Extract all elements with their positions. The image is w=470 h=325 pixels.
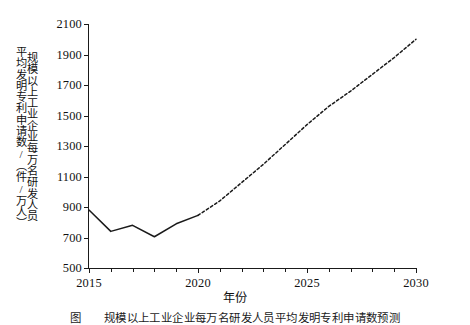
x-axis-tick: [307, 268, 308, 273]
x-axis-minor-tick: [351, 268, 352, 272]
x-axis-tick: [89, 268, 90, 273]
x-axis-minor-tick: [329, 268, 330, 272]
y-axis-tick-label: 2100: [56, 17, 82, 32]
series-line-forecast: [198, 39, 416, 215]
y-axis-title: 规模以上工业企业每万名研发人员 平均发明专利申请数/（件/万人）: [4, 12, 48, 262]
y-axis-tick-label: 900: [63, 200, 82, 215]
plot-area: 5007009001100130015001700190021002015202…: [88, 24, 416, 269]
y-axis-title-line-1: 规模以上工业企业每万名研发人员: [26, 52, 37, 222]
y-axis-tick-label: 1900: [56, 47, 82, 62]
y-axis-tick-label: 1700: [56, 78, 82, 93]
y-axis-tick: [84, 177, 89, 178]
x-axis-title: 年份: [0, 288, 470, 306]
x-axis-tick: [416, 268, 417, 273]
figure-caption: 图 规模以上工业企业每万名研发人员平均发明专利申请数预测: [0, 309, 470, 325]
x-axis-tick: [198, 268, 199, 273]
y-axis-tick: [84, 116, 89, 117]
series-line-historical: [89, 210, 198, 237]
x-axis-minor-tick: [133, 268, 134, 272]
y-axis-tick: [84, 207, 89, 208]
y-axis-tick: [84, 24, 89, 25]
x-axis-minor-tick: [111, 268, 112, 272]
y-axis-tick: [84, 238, 89, 239]
x-axis-minor-tick: [263, 268, 264, 272]
x-axis-minor-tick: [176, 268, 177, 272]
y-axis-title-line-2: 平均发明专利申请数/（件/万人）: [15, 46, 26, 229]
x-axis-minor-tick: [242, 268, 243, 272]
data-series-layer: [89, 24, 416, 268]
y-axis-tick: [84, 146, 89, 147]
y-axis-tick-label: 500: [63, 261, 82, 276]
y-axis-tick: [84, 55, 89, 56]
x-axis-minor-tick: [285, 268, 286, 272]
y-axis-tick-label: 1300: [56, 139, 82, 154]
x-axis-minor-tick: [220, 268, 221, 272]
y-axis-tick-label: 1100: [57, 169, 82, 184]
y-axis-tick-label: 1500: [56, 108, 82, 123]
y-axis-tick-label: 700: [63, 230, 82, 245]
x-axis-minor-tick: [154, 268, 155, 272]
x-axis-minor-tick: [394, 268, 395, 272]
y-axis-tick: [84, 85, 89, 86]
x-axis-minor-tick: [372, 268, 373, 272]
